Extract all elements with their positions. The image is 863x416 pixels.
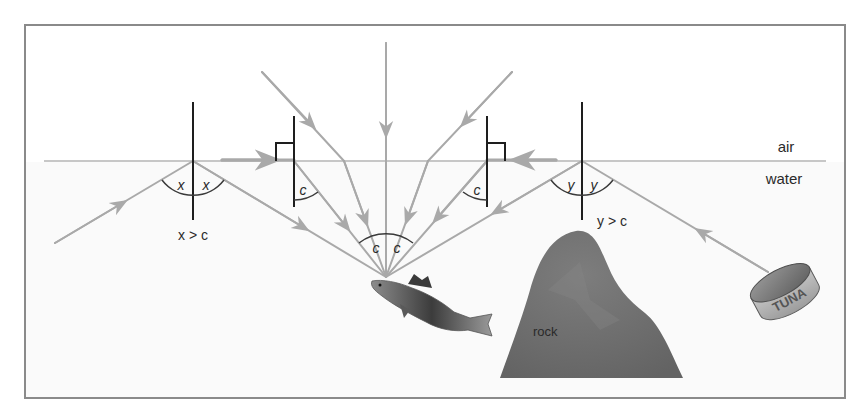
water-label: water (765, 170, 803, 187)
rock-label: rock (533, 324, 558, 339)
label-x-right: x (202, 177, 211, 193)
label-c-cone-left: c (373, 240, 380, 256)
label-c-cone-right: c (394, 240, 401, 256)
label-y-right: y (590, 177, 599, 193)
air-label: air (778, 138, 795, 155)
label-c-critical-left: c (300, 182, 307, 198)
water-region (26, 162, 844, 397)
label-x-condition: x > c (178, 227, 208, 243)
label-c-critical-right: c (474, 182, 481, 198)
total-internal-reflection-diagram: air water (0, 0, 863, 416)
label-x-left: x (177, 177, 186, 193)
label-y-left: y (567, 177, 576, 193)
label-y-condition: y > c (597, 213, 627, 229)
